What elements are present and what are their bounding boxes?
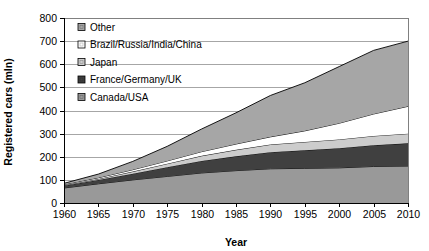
x-tick-label: 2005 xyxy=(363,208,387,220)
y-tick-label: 500 xyxy=(39,81,57,93)
x-tick-label: 1990 xyxy=(259,208,283,220)
x-tick-label: 1965 xyxy=(87,208,111,220)
legend-swatch-inner xyxy=(80,96,83,99)
legend-item: Other xyxy=(78,22,116,33)
legend-label: Canada/USA xyxy=(90,92,149,103)
x-tick-label: 1980 xyxy=(191,208,215,220)
legend-label: Brazil/Russia/India/China xyxy=(90,39,202,50)
x-tick-label: 1985 xyxy=(225,208,249,220)
y-tick-label: 700 xyxy=(39,35,57,47)
y-tick-label: 800 xyxy=(39,12,57,24)
x-tick-label: 1960 xyxy=(53,208,77,220)
legend-item: Canada/USA xyxy=(78,92,149,103)
legend-swatch-inner xyxy=(80,61,83,64)
chart-container: 1960196519701975198019851990199520002005… xyxy=(0,0,429,251)
y-axis-title: Registered cars (mln) xyxy=(2,58,14,165)
legend-label: Other xyxy=(90,22,116,33)
legend-item: Brazil/Russia/India/China xyxy=(78,39,202,50)
y-tick-label: 100 xyxy=(39,174,57,186)
legend-label: Japan xyxy=(90,57,117,68)
chart-legend: OtherBrazil/Russia/India/ChinaJapanFranc… xyxy=(78,22,202,103)
x-axis-title: Year xyxy=(225,236,247,248)
y-axis-tick-labels: 0100200300400500600700800 xyxy=(39,12,64,209)
x-tick-label: 1995 xyxy=(294,208,318,220)
legend-item: France/Germany/UK xyxy=(78,74,182,85)
x-tick-label: 1975 xyxy=(156,208,180,220)
stacked-area-chart: 1960196519701975198019851990199520002005… xyxy=(0,0,429,251)
legend-swatch-inner xyxy=(80,43,83,46)
x-tick-label: 2000 xyxy=(328,208,352,220)
legend-swatch-inner xyxy=(80,78,83,81)
x-tick-label: 1970 xyxy=(122,208,146,220)
y-tick-label: 400 xyxy=(39,105,57,117)
legend-swatch-inner xyxy=(80,26,83,29)
legend-item: Japan xyxy=(78,57,117,68)
y-tick-label: 300 xyxy=(39,128,57,140)
x-axis-tick-labels: 1960196519701975198019851990199520002005… xyxy=(53,203,421,220)
y-tick-label: 200 xyxy=(39,151,57,163)
y-tick-label: 600 xyxy=(39,58,57,70)
legend-label: France/Germany/UK xyxy=(90,74,182,85)
y-tick-label: 0 xyxy=(51,197,57,209)
x-tick-label: 2010 xyxy=(397,208,421,220)
